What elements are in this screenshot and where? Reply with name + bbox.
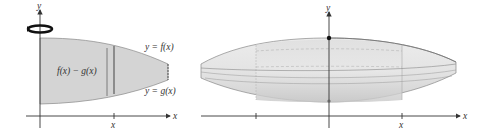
right-figure: y x x bbox=[201, 3, 468, 130]
left-y-axis-label: y bbox=[36, 1, 42, 11]
right-x-axis-label: x bbox=[462, 111, 468, 121]
right-x-tick-label: x bbox=[398, 120, 404, 130]
left-x-tick-label: x bbox=[110, 120, 116, 130]
left-x-axis-label: x bbox=[172, 111, 178, 121]
diagram-canvas: y x x y = f(x) y = g(x) f(x) − g(x) y x … bbox=[0, 0, 486, 135]
bottom-point bbox=[327, 99, 330, 102]
top-point bbox=[327, 36, 331, 40]
height-label: f(x) − g(x) bbox=[57, 66, 97, 77]
rotation-arrow-icon bbox=[27, 26, 52, 33]
upper-curve-label: y = f(x) bbox=[144, 42, 174, 53]
lower-curve-label: y = g(x) bbox=[144, 86, 176, 97]
right-y-axis-label: y bbox=[325, 3, 331, 13]
left-figure: y x x y = f(x) y = g(x) f(x) − g(x) bbox=[26, 1, 178, 130]
